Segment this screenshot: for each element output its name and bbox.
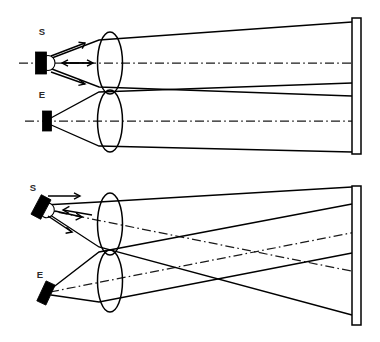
bottom-screen xyxy=(352,186,361,325)
optical-ray-diagram: Optical ray diagram: source and detector… xyxy=(0,0,380,342)
bottom-detector-label: E xyxy=(37,269,44,280)
figure-canvas: Optical ray diagram: source and detector… xyxy=(0,0,380,342)
bottom-source-label: S xyxy=(30,182,37,193)
top-source-label: S xyxy=(39,26,46,37)
top-source-body xyxy=(36,52,47,74)
top-detector-label: E xyxy=(39,89,46,100)
top-screen xyxy=(352,18,361,154)
top-detector-body xyxy=(43,111,52,131)
